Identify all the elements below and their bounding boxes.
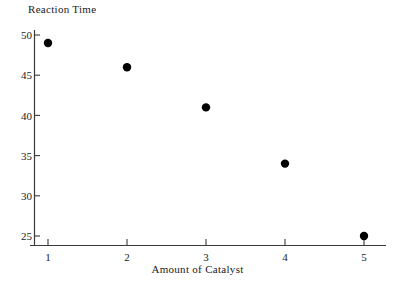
x-tick-marks xyxy=(48,239,364,246)
scatter-plot-screenshot: Reaction Time Amount of Catalyst 50 45 4… xyxy=(0,0,395,293)
data-point xyxy=(360,232,368,240)
data-point xyxy=(44,39,52,47)
data-point xyxy=(202,103,210,111)
data-point xyxy=(123,63,131,71)
y-tick-marks xyxy=(35,35,41,236)
data-point xyxy=(281,159,289,167)
chart-canvas: Reaction Time Amount of Catalyst 50 45 4… xyxy=(0,0,395,293)
plot-svg xyxy=(0,0,395,293)
